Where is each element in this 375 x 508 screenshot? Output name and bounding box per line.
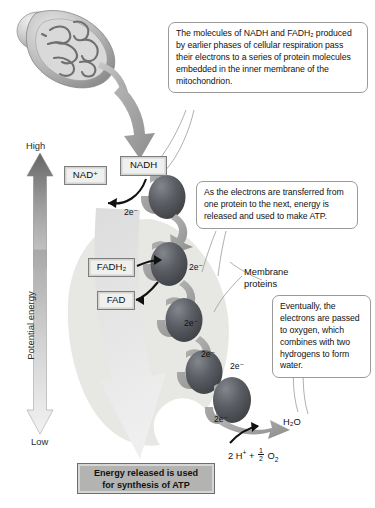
nadh-label: NADH xyxy=(130,159,157,170)
callout-box-1: The molecules of NADH and FADH₂ produced… xyxy=(168,22,368,93)
oxygen-equation-label: 2 H+ + 12 O2 xyxy=(228,447,278,463)
equation-protons: 2 H+ xyxy=(228,451,246,461)
equation-oxygen: O2 xyxy=(268,451,279,461)
molecule-box-nad-plus: NAD⁺ xyxy=(64,166,107,185)
electron-label-p1-p2: 2e⁻ xyxy=(189,262,203,272)
callout-2-text: As the electrons are transferred from on… xyxy=(204,187,344,221)
electron-label-oxygen: 2e⁻ xyxy=(214,414,228,424)
atp-banner-line-2: for synthesis of ATP xyxy=(78,480,214,492)
axis-label-high: High xyxy=(26,140,45,151)
callout-1-text: The molecules of NADH and FADH₂ produced… xyxy=(176,28,352,86)
equation-half-fraction: 12 xyxy=(258,447,264,462)
molecule-box-fadh2: FADH₂ xyxy=(88,258,135,277)
electron-label-p4-p5: 2e⁻ xyxy=(230,361,244,371)
axis-label-low: Low xyxy=(31,436,48,447)
atp-synthesis-banner: Energy released is used for synthesis of… xyxy=(77,463,215,494)
fad-label: FAD xyxy=(107,294,126,305)
callout-3-text: Eventually, the electrons are passed to … xyxy=(280,301,360,370)
protein-oval-icon xyxy=(141,173,186,219)
atp-banner-line-1: Energy released is used xyxy=(78,468,214,480)
callout-box-2: As the electrons are transferred from on… xyxy=(196,181,358,229)
water-label: H₂O xyxy=(283,416,301,427)
fadh2-label: FADH₂ xyxy=(97,261,126,272)
callout-box-3: Eventually, the electrons are passed to … xyxy=(272,295,371,378)
membrane-proteins-label: Membrane proteins xyxy=(244,266,288,290)
electron-label-nadh: 2e⁻ xyxy=(124,207,138,217)
mitochondrion-to-nadh-arrow-icon xyxy=(114,85,155,159)
molecule-box-fad: FAD xyxy=(97,291,135,310)
nad-plus-label: NAD⁺ xyxy=(73,169,98,180)
equation-plus: + xyxy=(249,451,254,461)
electron-label-p3-p4: 2e⁻ xyxy=(201,349,215,359)
mitochondrion-icon xyxy=(17,11,128,94)
molecule-box-nadh: NADH xyxy=(120,156,167,176)
membrane-proteins-line-1: Membrane xyxy=(244,266,288,278)
axis-title-potential-energy: Potential energy xyxy=(25,276,36,376)
electron-label-p2-p3: 2e⁻ xyxy=(184,318,198,328)
membrane-proteins-line-2: proteins xyxy=(244,278,288,290)
figure-canvas: The molecules of NADH and FADH₂ produced… xyxy=(0,0,375,508)
